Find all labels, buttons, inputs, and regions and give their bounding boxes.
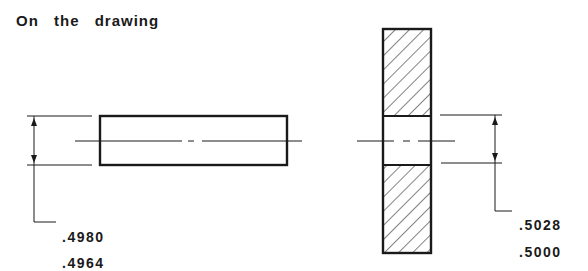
- hole-extension-lines: [440, 115, 502, 163]
- shaft-view: [27, 116, 302, 222]
- hole-tolerance-upper: .5028: [519, 217, 562, 233]
- shaft-dimension-line: [31, 116, 56, 222]
- shaft-tolerance-lower: .4964: [62, 255, 105, 271]
- shaft-tolerance-upper: .4980: [62, 229, 105, 245]
- hole-view: [357, 29, 512, 253]
- hole-tolerance-lower: .5000: [519, 244, 562, 260]
